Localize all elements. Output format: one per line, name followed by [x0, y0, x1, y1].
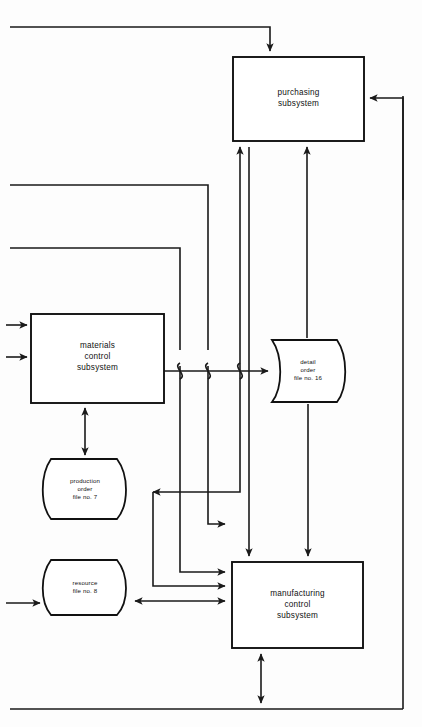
node-production-order-file[interactable]: production order file no. 7: [43, 459, 126, 519]
node-detail-order-file[interactable]: detail order file no. 16: [272, 340, 345, 402]
production-order-file-label-line2: order: [78, 485, 93, 492]
materials-control-label-line2: control: [85, 352, 111, 361]
detail-order-file-label-line2: order: [301, 366, 316, 373]
resource-file-label-line2: file no. 8: [73, 587, 98, 594]
manufacturing-control-label-line2: control: [285, 600, 311, 609]
node-purchasing-subsystem[interactable]: purchasing subsystem: [233, 57, 364, 141]
materials-control-label-line3: subsystem: [77, 363, 118, 372]
node-resource-file[interactable]: resource file no. 8: [43, 560, 126, 615]
flow-diagram-canvas: purchasing subsystem materials control s…: [0, 0, 422, 727]
edge-bus-180-lower: [180, 366, 225, 572]
flow-diagram-svg: purchasing subsystem materials control s…: [0, 0, 422, 727]
node-materials-control-subsystem[interactable]: materials control subsystem: [31, 314, 164, 403]
materials-control-label-line1: materials: [80, 341, 115, 350]
manufacturing-control-label-line1: manufacturing: [270, 589, 325, 598]
detail-order-file-label-line1: detail: [300, 358, 315, 365]
edge-bus-208-lower: [208, 366, 225, 524]
node-manufacturing-control-subsystem[interactable]: manufacturing control subsystem: [232, 562, 363, 648]
production-order-file-label-line3: file no. 7: [73, 493, 98, 500]
edge-external-to-purchasing-top: [10, 27, 270, 51]
purchasing-subsystem-label-line2: subsystem: [278, 99, 319, 108]
edge-right-loop-to-purchasing: [370, 98, 403, 200]
detail-order-file-label-line3: file no. 16: [294, 374, 323, 381]
edge-vertical-240-lower: [153, 366, 240, 492]
manufacturing-control-label-line3: subsystem: [277, 611, 318, 620]
production-order-file-label-line1: production: [70, 477, 100, 484]
resource-file-label-line1: resource: [73, 579, 98, 586]
purchasing-subsystem-label-line1: purchasing: [277, 88, 319, 97]
